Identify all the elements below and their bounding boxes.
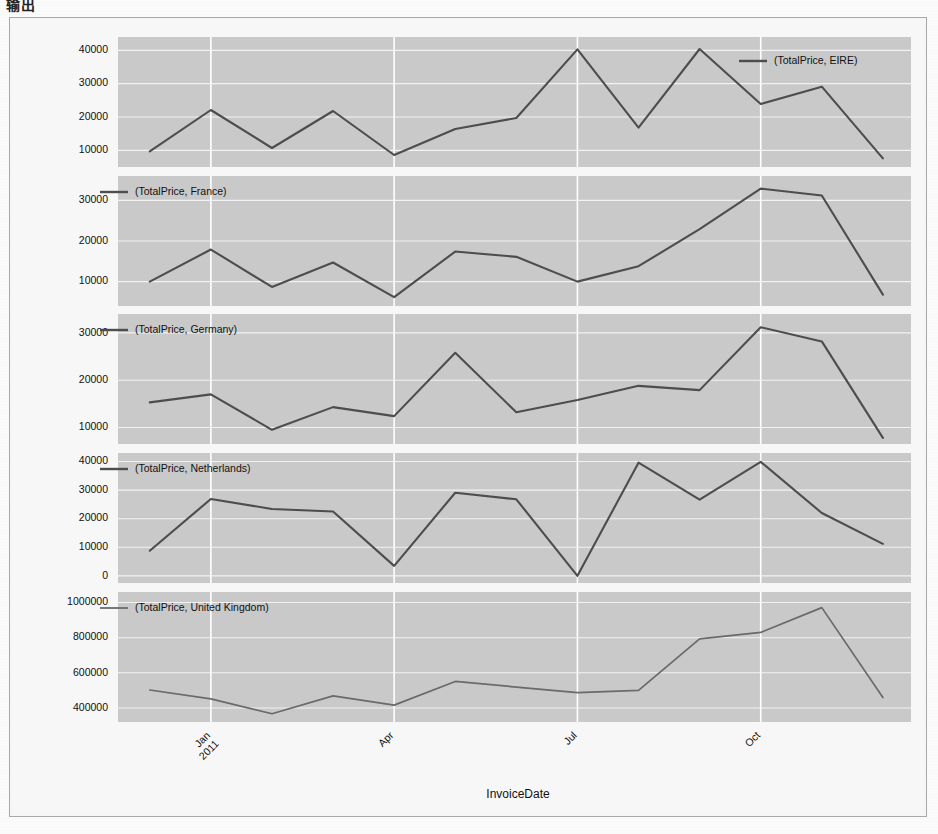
x-tick-label-group: Jul xyxy=(561,729,579,747)
multi-panel-line-chart: 10000200003000040000(TotalPrice, EIRE)10… xyxy=(13,21,925,815)
y-tick-label: 600000 xyxy=(73,666,108,678)
legend-label: (TotalPrice, France) xyxy=(135,185,227,197)
panel-germany: 100002000030000(TotalPrice, Germany) xyxy=(79,314,911,444)
legend-label: (TotalPrice, EIRE) xyxy=(774,54,857,66)
y-tick-label: 30000 xyxy=(79,326,108,338)
y-tick-label: 800000 xyxy=(73,630,108,642)
panel-netherlands: 010000200003000040000(TotalPrice, Nether… xyxy=(79,453,911,583)
y-tick-label: 20000 xyxy=(79,511,108,523)
x-tick-label: Apr xyxy=(376,729,396,749)
y-tick-label: 20000 xyxy=(79,373,108,385)
y-tick-label: 400000 xyxy=(73,701,108,713)
panel-france: 100002000030000(TotalPrice, France) xyxy=(79,176,911,306)
y-tick-label: 0 xyxy=(102,569,108,581)
figure-canvas: 10000200003000040000(TotalPrice, EIRE)10… xyxy=(13,21,923,813)
y-tick-label: 10000 xyxy=(79,540,108,552)
document-title: 输出 xyxy=(6,0,36,14)
x-tick-label-group: Apr xyxy=(376,729,396,749)
page-background: 输出 10000200003000040000(TotalPrice, EIRE… xyxy=(0,0,938,834)
panel-eire: 10000200003000040000(TotalPrice, EIRE) xyxy=(79,37,911,167)
y-tick-label: 30000 xyxy=(79,483,108,495)
y-tick-label: 10000 xyxy=(79,143,108,155)
y-tick-label: 30000 xyxy=(79,193,108,205)
y-tick-label: 10000 xyxy=(79,420,108,432)
y-tick-label: 30000 xyxy=(79,76,108,88)
legend-label: (TotalPrice, United Kingdom) xyxy=(135,601,269,613)
y-tick-label: 20000 xyxy=(79,234,108,246)
panels-root: 10000200003000040000(TotalPrice, EIRE)10… xyxy=(67,37,911,762)
y-tick-label: 40000 xyxy=(79,43,108,55)
y-tick-label: 10000 xyxy=(79,274,108,286)
y-tick-label: 20000 xyxy=(79,110,108,122)
x-tick-label-group: Jan2011 xyxy=(188,729,221,762)
panel-united-kingdom: 4000006000008000001000000(TotalPrice, Un… xyxy=(67,592,911,722)
y-tick-label: 1000000 xyxy=(67,595,108,607)
y-tick-label: 40000 xyxy=(79,454,108,466)
legend-label: (TotalPrice, Netherlands) xyxy=(135,462,251,474)
x-tick-label: Oct xyxy=(742,729,762,749)
figure-frame: 10000200003000040000(TotalPrice, EIRE)10… xyxy=(9,17,927,817)
x-tick-label: Jul xyxy=(561,729,579,747)
x-tick-label-group: Oct xyxy=(742,729,762,749)
x-axis-title: InvoiceDate xyxy=(486,787,550,801)
legend-label: (TotalPrice, Germany) xyxy=(135,323,237,335)
